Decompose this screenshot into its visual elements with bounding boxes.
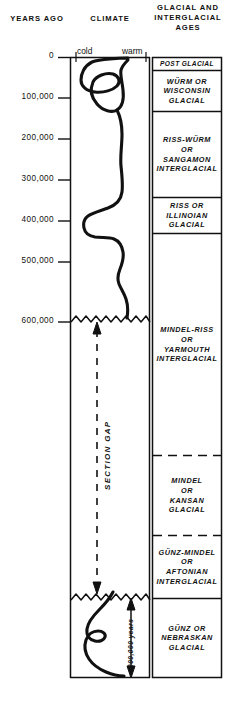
age-label-line: WISCONSIN (163, 86, 210, 96)
climate-column-frame (70, 57, 150, 678)
age-label-line: YARMOUTH (164, 345, 210, 355)
age-label-line: OR (181, 145, 193, 155)
age-label-line: OR (181, 335, 193, 345)
age-cell-riss-wurm-sangamon: RISS-WÜRM OR SANGAMON INTERGLACIAL (153, 112, 221, 197)
age-label-line: KANSAN (170, 496, 205, 506)
duration-span-label: 200,000 years (127, 619, 134, 668)
age-label-line: MINDEL (171, 476, 202, 486)
age-label-line: WÜRM OR (167, 77, 207, 87)
age-label-line: ILLINOIAN (166, 211, 207, 221)
age-label-line: GÜNZ-MINDEL (158, 548, 215, 558)
age-label-line: GLACIAL (169, 96, 205, 106)
age-label-line: SANGAMON (163, 155, 211, 165)
age-cell-gunz-mindel-aftonian: GÜNZ-MINDEL OR AFTONIAN INTERGLACIAL (153, 536, 221, 598)
age-label-line: GLACIAL (169, 643, 205, 653)
age-cell-gunz-nebraskan: GÜNZ OR NEBRASKAN GLACIAL (153, 599, 221, 677)
age-label-line: GLACIAL (169, 220, 205, 230)
age-cell-mindel-riss-yarmouth: MINDEL-RISS OR YARMOUTH INTERGLACIAL (153, 234, 221, 455)
unconformity-line-top (71, 316, 150, 322)
age-label-line: RISS-WÜRM (163, 135, 211, 145)
climate-curve-upper (81, 58, 128, 111)
age-label-line: INTERGLACIAL (157, 164, 218, 174)
age-label-line: OR (181, 486, 193, 496)
age-label-line: POST GLACIAL (160, 59, 214, 69)
climate-curve-lower (85, 592, 124, 676)
age-label-line: MINDEL-RISS (160, 325, 213, 335)
age-cell-mindel-kansan: MINDEL OR KANSAN GLACIAL (153, 456, 221, 535)
climate-curve-upper-lower (84, 110, 128, 318)
age-cell-wurm-wisconsin: WÜRM OR WISCONSIN GLACIAL (153, 71, 221, 111)
age-label-line: RISS OR (170, 201, 204, 211)
age-cell-riss-illinoian: RISS OR ILLINOIAN GLACIAL (153, 198, 221, 233)
section-gap-label: SECTION GAP (103, 421, 112, 490)
age-label-line: OR (181, 557, 193, 567)
age-label-line: INTERGLACIAL (157, 577, 218, 587)
year-axis-ticks (58, 58, 70, 323)
age-cell-post-glacial: POST GLACIAL (153, 58, 221, 70)
age-label-line: GÜNZ OR (168, 624, 206, 634)
age-label-line: NEBRASKAN (161, 633, 213, 643)
age-label-line: INTERGLACIAL (157, 354, 218, 364)
age-label-line: AFTONIAN (166, 567, 208, 577)
glacial-chronology-figure: YEARS AGO CLIMATE GLACIAL AND INTERGLACI… (0, 0, 230, 704)
age-label-line: GLACIAL (169, 505, 205, 515)
section-gap-arrow (93, 322, 101, 594)
